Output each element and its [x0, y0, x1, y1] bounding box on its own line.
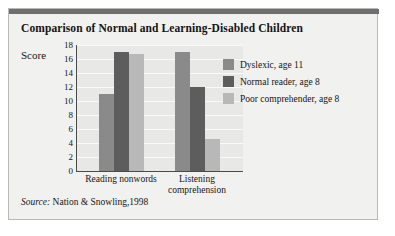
bar — [114, 52, 129, 171]
y-axis-title: Score — [21, 49, 46, 61]
y-tick-label: 10 — [64, 97, 73, 105]
legend-item: Dyslexic, age 11 — [223, 57, 373, 72]
y-tick-label: 2 — [69, 153, 74, 161]
y-tick-label: 18 — [64, 41, 73, 49]
y-tick-label: 12 — [64, 83, 73, 91]
y-tick-label: 4 — [69, 139, 74, 147]
bar — [190, 87, 205, 171]
source-label: Source: — [21, 197, 50, 207]
chart-legend: Dyslexic, age 11Normal reader, age 8Poor… — [223, 57, 373, 108]
bar — [175, 52, 190, 171]
legend-label: Dyslexic, age 11 — [240, 60, 303, 70]
x-axis-line — [76, 171, 243, 172]
bar — [99, 94, 114, 171]
title-rule — [9, 9, 379, 14]
bar-group — [175, 45, 220, 171]
bar-group — [99, 45, 144, 171]
source-citation: Nation & Snowling,1998 — [50, 197, 148, 207]
y-tick-label: 6 — [69, 125, 74, 133]
source-note: Source: Nation & Snowling,1998 — [21, 197, 148, 207]
y-tick-label: 0 — [69, 167, 74, 175]
y-axis-ticks: 181614121086420 — [55, 43, 73, 171]
legend-swatch-icon — [223, 76, 234, 87]
legend-swatch-icon — [223, 59, 234, 70]
x-tick-label: Listening comprehension — [152, 174, 242, 196]
chart-title: Comparison of Normal and Learning-Disabl… — [21, 22, 303, 34]
plot-area — [77, 45, 243, 171]
bar — [205, 139, 220, 171]
legend-swatch-icon — [223, 93, 234, 104]
figure-panel: Comparison of Normal and Learning-Disabl… — [8, 8, 378, 220]
legend-label: Poor comprehender, age 8 — [240, 94, 339, 104]
y-tick-label: 14 — [64, 69, 73, 77]
legend-item: Normal reader, age 8 — [223, 74, 373, 89]
bar — [129, 54, 144, 171]
legend-item: Poor comprehender, age 8 — [223, 91, 373, 106]
y-tick-label: 16 — [64, 55, 73, 63]
legend-label: Normal reader, age 8 — [240, 77, 320, 87]
y-tick-label: 8 — [69, 111, 74, 119]
